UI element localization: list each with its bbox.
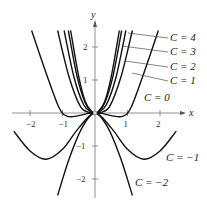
y-tick-label: 1: [83, 75, 88, 85]
curve-label: C = 2: [170, 60, 196, 72]
y-tick-label: −2: [76, 174, 86, 184]
curve-label: C = −2: [135, 176, 169, 188]
x-axis-label: x: [188, 107, 194, 118]
x-tick-label: 2: [156, 119, 161, 129]
plot-area: xy−2−11221−1−2C = 4C = 3C = 2C = 1C = 0C…: [0, 0, 207, 203]
y-tick-label: −1: [76, 141, 86, 151]
origin-point: [93, 111, 97, 115]
curve-label: C = 3: [170, 45, 196, 57]
curve-label: C = −1: [166, 151, 199, 163]
leader-line: [122, 46, 168, 52]
x-tick-label: −2: [26, 119, 36, 129]
curve-label: C = 1: [170, 74, 196, 86]
y-tick-label: 2: [83, 42, 88, 52]
curve-label: C = 0: [144, 91, 170, 103]
curve-label: C = 4: [170, 31, 196, 43]
x-tick-label: 1: [124, 119, 129, 129]
x-tick-label: −1: [59, 119, 69, 129]
leader-line: [128, 33, 168, 38]
leader-line: [132, 73, 168, 81]
y-axis-arrow-icon: [93, 20, 97, 27]
chart: xy−2−11221−1−2C = 4C = 3C = 2C = 1C = 0C…: [0, 0, 207, 203]
y-axis-label: y: [90, 9, 96, 20]
x-axis-arrow-icon: [180, 111, 186, 115]
